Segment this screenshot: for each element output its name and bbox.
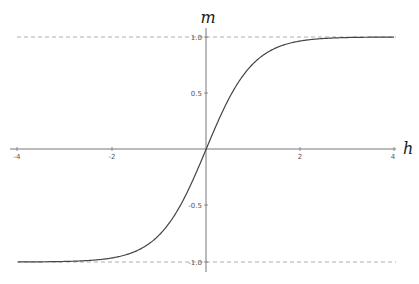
y-tick-label: 0.5 — [191, 90, 202, 98]
x-tick-label: 4 — [391, 153, 396, 161]
y-tick-label: -1.0 — [188, 259, 202, 267]
y-axis-label: m — [200, 8, 215, 27]
x-tick-label: -4 — [14, 153, 22, 161]
x-axis-label: h — [403, 139, 413, 158]
y-tick-label: -0.5 — [188, 202, 202, 210]
chart-canvas: -4 -2 2 4 1.0 0.5 -0.5 -1.0 m h — [0, 0, 419, 284]
x-tick-label: 2 — [298, 153, 302, 161]
x-tick-label: -2 — [109, 153, 116, 161]
y-tick-label: 1.0 — [191, 34, 202, 42]
